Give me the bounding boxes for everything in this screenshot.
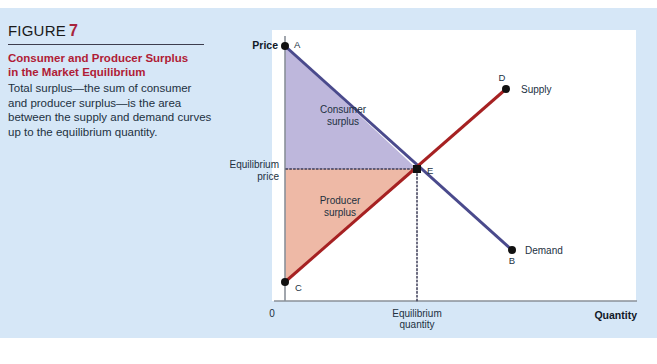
x-axis-title: Quantity bbox=[594, 309, 637, 321]
figure-panel: FIGURE7 Consumer and Producer Surplus in… bbox=[0, 8, 657, 338]
producer-surplus-label-line-2: surplus bbox=[324, 207, 356, 218]
figure-label-word: FIGURE bbox=[8, 22, 66, 39]
origin-label: 0 bbox=[269, 308, 275, 319]
figure-heading: FIGURE7 bbox=[8, 22, 218, 40]
figure-title-line-2: in the Market Equilibrium bbox=[8, 66, 145, 78]
caption-divider bbox=[8, 44, 204, 45]
equilibrium-price-label-line-1: Equilibrium bbox=[230, 159, 279, 170]
chart-container: A B C D E Supply Demand Consumer surplus… bbox=[228, 20, 652, 330]
figure-title: Consumer and Producer Surplus in the Mar… bbox=[8, 52, 208, 79]
consumer-surplus-label-line-2: surplus bbox=[327, 116, 359, 127]
point-b-marker bbox=[508, 246, 516, 254]
point-a-label: A bbox=[294, 39, 301, 50]
point-c-label: C bbox=[295, 282, 302, 293]
equilibrium-quantity-label-line-2: quantity bbox=[399, 319, 434, 330]
point-c-marker bbox=[281, 278, 289, 286]
point-b-label: B bbox=[509, 255, 515, 266]
figure-title-line-1: Consumer and Producer Surplus bbox=[8, 52, 188, 64]
equilibrium-price-label-line-2: price bbox=[257, 171, 279, 182]
demand-curve-label: Demand bbox=[525, 245, 563, 256]
producer-surplus-label-line-1: Producer bbox=[320, 195, 361, 206]
y-axis-title: Price bbox=[252, 39, 278, 51]
equilibrium-quantity-label-line-1: Equilibrium bbox=[392, 308, 441, 319]
supply-demand-chart: A B C D E Supply Demand Consumer surplus… bbox=[228, 20, 652, 330]
point-a-marker bbox=[281, 42, 289, 50]
figure-number: 7 bbox=[69, 22, 78, 39]
point-d-marker bbox=[502, 85, 510, 93]
point-e-label: E bbox=[427, 165, 433, 176]
figure-caption-block: FIGURE7 Consumer and Producer Surplus in… bbox=[8, 22, 218, 139]
point-e-marker bbox=[413, 165, 421, 173]
figure-description: Total surplus—the sum of consumer and pr… bbox=[8, 81, 212, 139]
consumer-surplus-label-line-1: Consumer bbox=[320, 104, 367, 115]
point-d-label: D bbox=[499, 72, 506, 83]
supply-curve-label: Supply bbox=[521, 84, 552, 95]
